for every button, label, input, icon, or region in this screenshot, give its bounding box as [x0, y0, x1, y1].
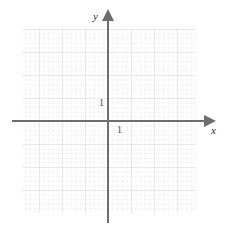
x-axis-label: x — [211, 125, 216, 136]
coordinate-plane-figure: y x 1 1 — [0, 0, 225, 231]
coordinate-plane-svg — [0, 0, 225, 231]
x-axis-tick-label-one: 1 — [117, 125, 122, 135]
y-axis-label: y — [93, 11, 98, 22]
y-axis-tick-label-one: 1 — [99, 98, 104, 108]
